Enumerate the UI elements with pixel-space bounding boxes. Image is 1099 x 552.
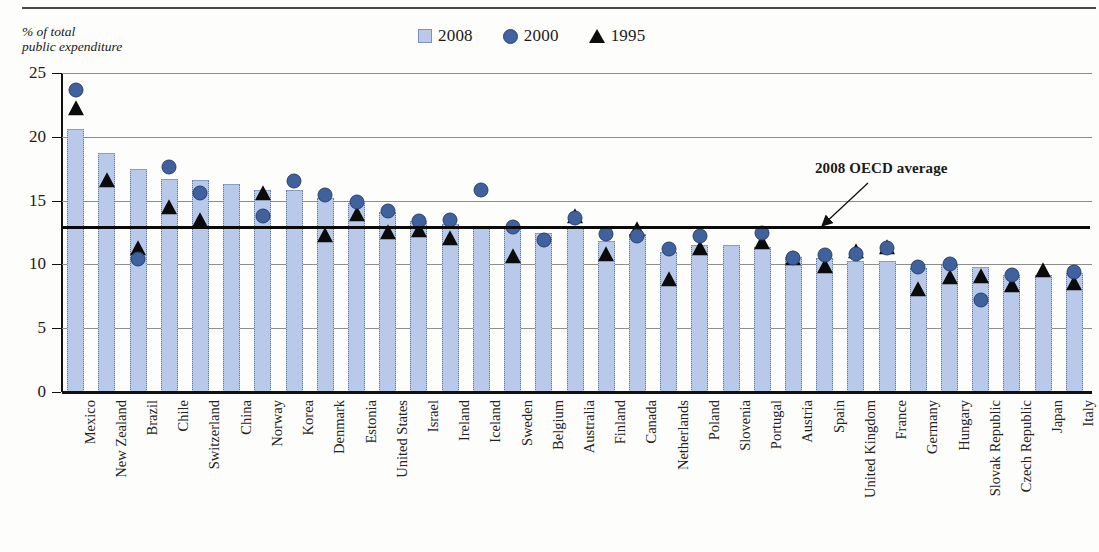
- bar-2008: [348, 203, 365, 392]
- bar-2008: [598, 241, 615, 392]
- x-axis-category-label: Sweden: [519, 400, 536, 446]
- x-axis-category-label: Ireland: [456, 400, 473, 441]
- bar-2008: [473, 226, 490, 392]
- oecd-average-line: [62, 226, 1090, 229]
- x-axis-category-label: Mexico: [82, 400, 99, 444]
- y-axis-tick: [52, 392, 61, 393]
- bar-2008: [1066, 273, 1083, 392]
- marker-2000: [380, 203, 395, 218]
- bar-2008: [410, 221, 427, 392]
- bar-2008: [754, 247, 771, 392]
- y-axis-tick: [52, 201, 61, 202]
- x-axis-category-label: Spain: [831, 400, 848, 433]
- marker-1995: [973, 268, 989, 283]
- y-axis-tick-label: 5: [0, 318, 46, 338]
- legend-label-2008: 2008: [438, 26, 473, 46]
- x-axis-category-label: Chile: [175, 400, 192, 431]
- marker-2000: [287, 174, 302, 189]
- marker-1995: [661, 271, 677, 286]
- marker-2000: [942, 257, 957, 272]
- circle-icon: [503, 29, 518, 44]
- x-axis-category-label: Switzerland: [206, 400, 223, 469]
- x-axis-category-label: Japan: [1049, 400, 1066, 433]
- x-axis-category-label: Poland: [706, 400, 723, 440]
- bar-2008: [691, 245, 708, 392]
- marker-2000: [817, 248, 832, 263]
- bar-2008: [567, 226, 584, 392]
- marker-2000: [1067, 265, 1082, 280]
- bar-2008: [1035, 275, 1052, 392]
- y-axis-tick: [52, 137, 61, 138]
- marker-2000: [536, 233, 551, 248]
- bar-swatch-icon: [418, 29, 432, 43]
- x-axis-category-label: Iceland: [487, 400, 504, 443]
- legend-item-1995: 1995: [589, 26, 646, 46]
- bar-2008: [98, 153, 115, 392]
- bar-2008: [816, 258, 833, 392]
- marker-2000: [349, 194, 364, 209]
- x-axis-category-label: Belgium: [550, 400, 567, 450]
- x-axis-line: [62, 391, 1092, 394]
- x-axis-category-label: France: [893, 400, 910, 439]
- plot-area: [62, 73, 1092, 392]
- marker-2000: [568, 211, 583, 226]
- gridline: [62, 201, 1092, 202]
- x-axis-category-label: Finland: [612, 400, 629, 444]
- marker-1995: [505, 248, 521, 263]
- bar-2008: [972, 267, 989, 392]
- x-axis-category-label: Brazil: [144, 400, 161, 435]
- x-axis-category-label: China: [238, 400, 255, 435]
- bar-2008: [879, 261, 896, 392]
- marker-1995: [910, 281, 926, 296]
- x-axis-category-label: Portugal: [768, 400, 785, 449]
- marker-1995: [68, 100, 84, 115]
- x-axis-category-label: Israel: [425, 400, 442, 432]
- chart-legend: 2008 2000 1995: [418, 26, 645, 46]
- bar-2008: [286, 190, 303, 392]
- y-axis-tick: [52, 328, 61, 329]
- marker-1995: [317, 228, 333, 243]
- y-axis-tick: [52, 264, 61, 265]
- annotation-arrow-icon: [795, 175, 885, 245]
- marker-1995: [161, 200, 177, 215]
- x-axis-category-label: New Zealand: [113, 400, 130, 478]
- marker-1995: [1035, 262, 1051, 277]
- chart-figure: % of total public expenditure 2008 2000 …: [0, 0, 1099, 552]
- marker-1995: [442, 230, 458, 245]
- y-axis-tick-label: 20: [0, 127, 46, 147]
- bar-2008: [223, 184, 240, 392]
- marker-2000: [661, 242, 676, 257]
- y-axis-labels: 0510152025: [0, 0, 62, 552]
- bar-2008: [379, 212, 396, 392]
- x-axis-category-label: Denmark: [331, 400, 348, 454]
- x-axis-category-label: Korea: [300, 400, 317, 435]
- x-axis-category-label: Czech Republic: [1018, 400, 1035, 492]
- x-axis-category-label: Netherlands: [675, 400, 692, 470]
- x-axis-category-label: Austria: [799, 400, 816, 443]
- marker-1995: [99, 173, 115, 188]
- marker-2000: [786, 251, 801, 266]
- bar-2008: [629, 234, 646, 392]
- x-axis-category-label: Slovenia: [737, 400, 754, 451]
- marker-2000: [131, 252, 146, 267]
- gridline: [62, 137, 1092, 138]
- legend-item-2000: 2000: [503, 26, 559, 46]
- gridline: [62, 73, 1092, 74]
- x-axis-category-label: Italy: [1080, 400, 1097, 427]
- bar-2008: [67, 129, 84, 392]
- x-axis-category-label: Australia: [581, 400, 598, 453]
- x-axis-category-label: Estonia: [363, 400, 380, 444]
- marker-2000: [318, 188, 333, 203]
- marker-2000: [162, 160, 177, 175]
- y-axis-tick-label: 15: [0, 191, 46, 211]
- y-axis-tick-label: 0: [0, 382, 46, 402]
- y-axis-tick: [52, 73, 61, 74]
- bar-2008: [723, 245, 740, 392]
- x-axis-category-label: Germany: [924, 400, 941, 454]
- marker-2000: [692, 229, 707, 244]
- bar-2008: [130, 169, 147, 392]
- x-axis-category-label: United States: [394, 400, 411, 478]
- x-axis-category-label: Hungary: [956, 400, 973, 451]
- marker-2000: [193, 185, 208, 200]
- legend-label-2000: 2000: [524, 26, 559, 46]
